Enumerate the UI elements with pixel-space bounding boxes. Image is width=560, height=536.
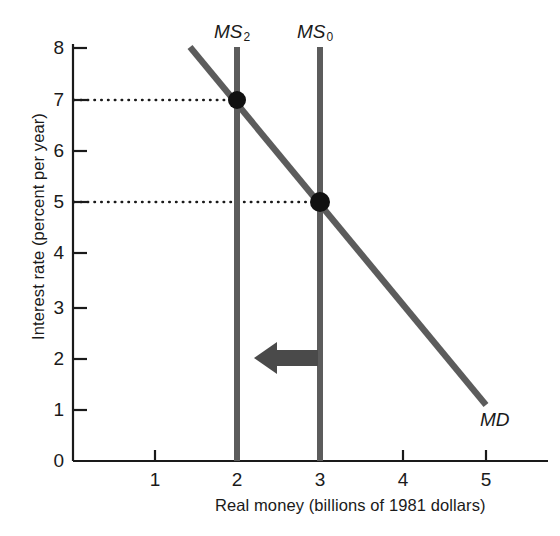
curve-label-ms2-base: MS (214, 21, 243, 42)
curve-label-ms2-subscript: 2 (244, 30, 251, 44)
x-tick-label-1: 1 (142, 470, 168, 489)
y-tick-label-1: 1 (38, 400, 64, 419)
y-tick-label-2: 2 (38, 349, 64, 368)
chart-plot-area (0, 0, 560, 536)
x-tick-label-5: 5 (473, 470, 499, 489)
equilibrium-marker-initial (310, 192, 330, 212)
x-tick-label-4: 4 (390, 470, 416, 489)
curve-label-md: MD (480, 410, 510, 429)
y-tick-label-0: 0 (38, 451, 64, 470)
money-market-figure: 8 7 6 5 4 3 2 1 0 1 2 3 4 5 Interest rat… (0, 0, 560, 536)
equilibrium-marker-new (228, 91, 246, 109)
curve-label-ms0: MS0 (297, 22, 332, 41)
guide-lines-group (74, 100, 320, 202)
curve-label-ms0-subscript: 0 (327, 30, 334, 44)
curve-label-ms2: MS2 (214, 22, 249, 41)
x-tick-label-3: 3 (307, 470, 333, 489)
x-axis-title: Real money (billions of 1981 dollars) (215, 497, 486, 514)
curve-label-ms0-base: MS (297, 21, 326, 42)
y-tick-label-7: 7 (38, 90, 64, 109)
money-supply-decrease-arrow (254, 342, 318, 374)
y-tick-label-8: 8 (38, 38, 64, 57)
y-tick-marks (73, 48, 87, 410)
x-tick-label-2: 2 (224, 470, 250, 489)
y-axis-title: Interest rate (percent per year) (30, 113, 47, 340)
